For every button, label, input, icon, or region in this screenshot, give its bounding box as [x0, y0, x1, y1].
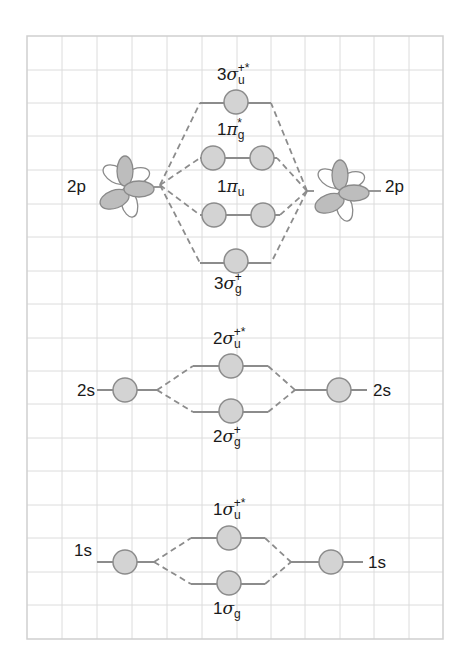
2p-right-label: 2p	[385, 177, 404, 196]
2s-left-label: 2s	[77, 381, 95, 400]
ao-level-2s-right	[295, 378, 367, 402]
mo-level-1pi-u	[200, 203, 280, 227]
ao-level-2s-left	[97, 378, 157, 402]
mo-label-1sigma-u: 1σu+*	[213, 496, 246, 522]
2s-right-label: 2s	[373, 381, 391, 400]
mo-level-2sigma-u	[193, 354, 268, 378]
mo-label-2sigma-u: 2σu+*	[213, 325, 246, 351]
mo-label-3sigma-u: 3σu+*	[217, 61, 250, 87]
ao-level-1s-right	[291, 550, 363, 574]
mo-label-1pi-u: 1πu	[217, 176, 244, 199]
1s-right-label: 1s	[368, 553, 386, 572]
2p-right-orbital-icon	[307, 160, 381, 223]
mo-level-1pi-g	[200, 146, 277, 170]
mo-label-2sigma-g: 2σg+	[213, 423, 241, 449]
mo-label-1pi-g: 1πg*	[217, 116, 244, 142]
mo-level-2sigma-g	[193, 399, 268, 423]
2p-left-orbital-icon	[97, 156, 161, 219]
2p-left-label: 2p	[67, 177, 86, 196]
mo-label-3sigma-g: 3σg+	[214, 270, 242, 296]
mo-diagram: 2p 2p 3σu+* 1πg* 1πu	[0, 0, 466, 665]
ao-level-1s-left	[97, 550, 154, 574]
mo-level-3sigma-u	[200, 90, 271, 114]
1s-left-label: 1s	[74, 541, 92, 560]
